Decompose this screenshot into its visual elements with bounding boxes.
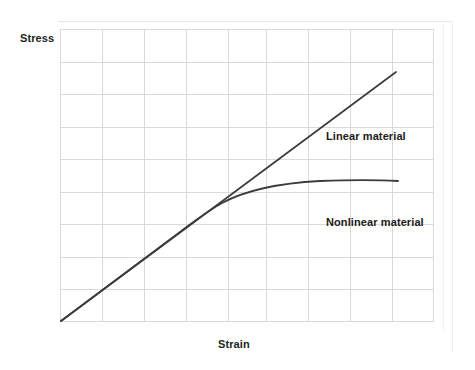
x-axis-label: Strain: [218, 338, 250, 350]
figure-canvas: Stress Strain Linear material Nonlinear …: [0, 0, 475, 370]
plot-gridlines: [60, 29, 434, 322]
nonlinear-material-annotation: Nonlinear material: [326, 216, 424, 228]
page-edge-lines: [58, 22, 453, 353]
nonlinear-material-curve: [61, 180, 398, 321]
linear-material-annotation: Linear material: [326, 130, 406, 142]
stress-strain-plot: [0, 0, 475, 370]
y-axis-label: Stress: [20, 32, 54, 44]
